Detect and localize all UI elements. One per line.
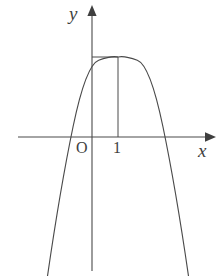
x-axis-arrow-icon [205,132,216,142]
origin-label: O [76,140,88,156]
graph-canvas [0,0,224,276]
y-axis-arrow-icon [87,5,96,16]
y-axis-label: y [69,4,77,23]
x-axis-label: x [198,141,206,160]
x-tick-label-1: 1 [113,140,121,156]
parabola-figure: y x O 1 [0,0,224,276]
